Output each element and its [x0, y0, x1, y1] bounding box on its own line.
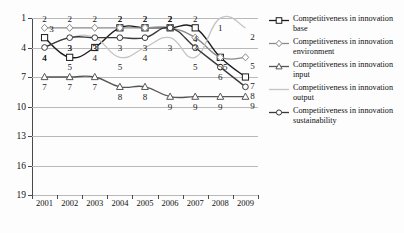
circle-marker-key	[268, 107, 290, 118]
legend-item-2[interactable]: Competitiveness in innovation input	[268, 60, 404, 80]
legend-item-4[interactable]: Competitiveness in innovation sustainabi…	[268, 106, 404, 126]
series-lines	[0, 0, 275, 233]
data-point-marker	[66, 24, 73, 31]
data-point-marker	[67, 54, 73, 60]
legend-label: Competitiveness in innovation environmen…	[293, 37, 404, 57]
data-point-marker	[92, 24, 99, 31]
data-point-marker	[92, 44, 98, 50]
data-point-marker	[142, 35, 148, 41]
legend-label: Competitiveness in innovation base	[293, 14, 404, 34]
data-point-marker	[117, 35, 123, 41]
data-point-marker	[242, 74, 248, 80]
legend-item-3[interactable]: Competitiveness in innovation output	[268, 83, 404, 103]
data-point-marker	[243, 84, 249, 90]
legend-item-0[interactable]: Competitiveness in innovation base	[268, 14, 404, 34]
line-only-key	[268, 84, 290, 95]
series-line	[45, 25, 246, 77]
diamond-marker-key	[268, 38, 290, 49]
triangle-marker-key	[268, 61, 290, 72]
chart-root: 14710131619 2001200220032004200520062007…	[0, 0, 404, 233]
square-marker-key	[268, 15, 290, 26]
chart-legend: Competitiveness in innovation baseCompet…	[268, 14, 404, 129]
data-point-marker	[42, 45, 48, 51]
data-point-marker	[92, 35, 98, 41]
legend-label: Competitiveness in innovation output	[293, 83, 404, 103]
data-point-marker	[192, 34, 199, 41]
legend-label: Competitiveness in innovation sustainabi…	[293, 106, 404, 126]
data-point-marker	[217, 64, 223, 70]
data-point-marker	[41, 24, 48, 31]
data-point-marker	[167, 25, 173, 31]
data-point-marker	[242, 54, 249, 61]
data-point-marker	[67, 35, 73, 41]
data-point-marker	[41, 35, 47, 41]
data-point-marker	[192, 45, 198, 51]
plot-area: 14710131619 2001200220032004200520062007…	[0, 0, 275, 233]
legend-label: Competitiveness in innovation input	[293, 60, 404, 80]
legend-item-1[interactable]: Competitiveness in innovation environmen…	[268, 37, 404, 57]
data-point-marker	[192, 25, 198, 31]
